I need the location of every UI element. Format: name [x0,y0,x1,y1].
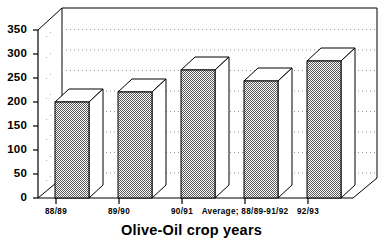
bar-89-90 [118,79,166,198]
bar-90-91 [181,57,229,198]
chart-depth-ticks [46,32,51,181]
x-tick-label-92-93: 92/93 [278,207,338,216]
y-tick-label-50: 50 [0,168,27,179]
y-tick-label-0: 0 [0,192,27,203]
x-axis-ticks [56,198,308,204]
bar-88-89 [55,89,103,198]
y-tick-label-250: 250 [0,72,27,83]
y-tick-label-350: 350 [0,24,27,35]
olive-oil-bar-chart: 350 300 250 200 150 100 50 0 88/89 89/90… [0,0,383,244]
x-tick-label-89-90: 89/90 [89,207,149,216]
x-tick-label-88-89: 88/89 [26,207,86,216]
y-tick-label-150: 150 [0,120,27,131]
y-tick-label-100: 100 [0,144,27,155]
bar-92-93 [307,48,355,198]
bar-average-88-89-91-92 [244,68,292,198]
y-axis [33,30,38,198]
y-tick-label-200: 200 [0,96,27,107]
y-tick-label-300: 300 [0,48,27,59]
x-axis-title: Olive-Oil crop years [0,222,383,238]
